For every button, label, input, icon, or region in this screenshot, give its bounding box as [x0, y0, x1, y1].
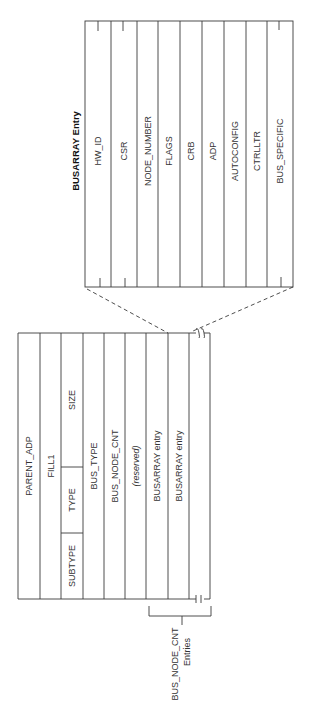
field-busarray-entry-1: BUSARRAY entry [152, 430, 162, 502]
field-fill1: FILL1 [46, 454, 56, 477]
field-hw-id: HW_ID [93, 136, 103, 166]
field-crb: CRB [186, 141, 196, 160]
field-subtype: SUBTYPE [67, 545, 77, 587]
bracket-label-line1: BUS_NODE_CNT [170, 627, 180, 701]
busarray-entry-title: BUSARRAY Entry [70, 110, 81, 190]
field-csr: CSR [119, 141, 129, 161]
field-bus-type: BUS_TYPE [89, 442, 99, 489]
field-busarray-entry-2: BUSARRAY entry [174, 430, 184, 502]
field-node-number: NODE_NUMBER [143, 115, 153, 186]
entries-bracket [149, 606, 211, 625]
field-ctrlltr: CTRLLTR [252, 131, 262, 171]
field-flags: FLAGS [164, 136, 174, 166]
field-size: SIZE [67, 390, 77, 410]
field-adp: ADP [208, 142, 218, 161]
field-reserved: (reserved) [131, 445, 141, 486]
field-parent-adp: PARENT_ADP [24, 436, 34, 495]
field-bus-node-cnt: BUS_NODE_CNT [110, 429, 120, 503]
busarray-diagram: BUSARRAY Entry HW_ID CSR NODE_NUMBER FLA… [0, 0, 309, 710]
field-autoconfig: AUTOCONFIG [230, 121, 240, 181]
bracket-label-line2: Entries [182, 637, 192, 666]
expansion-lines [87, 287, 293, 333]
field-bus-specific: BUS_SPECIFIC [275, 118, 285, 184]
field-type: TYPE [67, 488, 77, 512]
